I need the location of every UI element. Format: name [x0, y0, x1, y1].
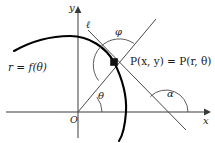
y-axis-arrowhead: [75, 6, 82, 13]
curve-equation-label: r = f(θ): [8, 62, 47, 73]
tangent-line-label: ℓ: [86, 20, 90, 30]
point-p-marker: [110, 58, 118, 66]
angle-phi-label: φ: [115, 27, 122, 37]
polar-tangent-figure: r = f(θ) P(x, y) = P(r, θ) O x y ℓ φ θ α: [0, 0, 215, 143]
x-axis-label: x: [203, 116, 209, 126]
origin-label: O: [70, 115, 78, 125]
angle-alpha-label: α: [167, 89, 174, 99]
point-p-label: P(x, y) = P(r, θ): [130, 56, 211, 67]
y-axis-label: y: [69, 3, 75, 13]
angle-theta-label: θ: [98, 91, 104, 101]
